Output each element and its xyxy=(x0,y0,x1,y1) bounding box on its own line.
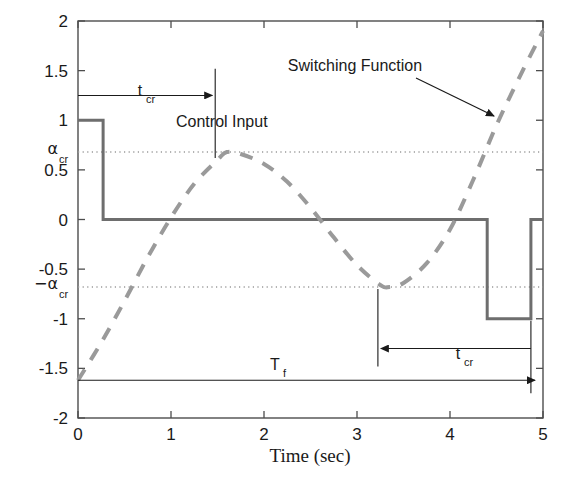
x-tick-label: 0 xyxy=(73,425,82,444)
control-input-annotation: Control Input xyxy=(176,113,268,130)
alpha-cr-negative-symbol: −α xyxy=(34,274,58,293)
figure-container: 012345 -2-1.5-1-0.500.511.52 Time (sec) … xyxy=(0,0,572,482)
y-tick-label: -2 xyxy=(53,409,68,428)
y-tick-label: 1 xyxy=(59,111,68,130)
y-tick-label: -1.5 xyxy=(39,359,68,378)
x-tick-label: 3 xyxy=(352,425,361,444)
t-cr-top-subscript: cr xyxy=(146,93,156,105)
x-tick-label: 5 xyxy=(538,425,547,444)
t-cr-bottom-subscript: cr xyxy=(464,356,474,368)
x-tick-label: 1 xyxy=(166,425,175,444)
x-axis-title: Time (sec) xyxy=(269,445,350,467)
y-tick-label: -1 xyxy=(53,310,68,329)
y-tick-label: 0 xyxy=(59,211,68,230)
t-cr-top-base: t xyxy=(138,82,143,99)
switching-function-annotation: Switching Function xyxy=(288,57,422,74)
alpha-cr-negative-subscript: cr xyxy=(59,288,69,300)
T-f-base: T xyxy=(270,356,280,373)
x-tick-label: 2 xyxy=(259,425,268,444)
y-tick-label: 2 xyxy=(59,12,68,31)
t-cr-bottom-base: t xyxy=(456,345,461,362)
switching-function-chart: 012345 -2-1.5-1-0.500.511.52 Time (sec) … xyxy=(0,0,572,482)
alpha-cr-positive-subscript: cr xyxy=(59,153,69,165)
y-tick-label: 1.5 xyxy=(44,62,68,81)
alpha-cr-positive-symbol: α xyxy=(47,139,58,158)
x-tick-label: 4 xyxy=(445,425,454,444)
